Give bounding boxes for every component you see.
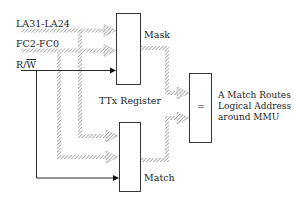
mask-output-bus	[140, 46, 189, 99]
mask-block	[117, 14, 141, 85]
output-text-line-3: around MMU	[218, 112, 280, 122]
match-output-bus	[140, 112, 189, 162]
rw-line	[21, 68, 119, 182]
rw-w-overbar: W	[26, 59, 36, 70]
output-text-line-1: A Match Routes	[217, 90, 291, 100]
output-text-line-2: Logical Address	[218, 101, 291, 111]
match-block	[120, 123, 141, 192]
mask-label: Mask	[144, 29, 170, 40]
fc-label: FC2-FC0	[16, 38, 59, 49]
compare-label: =	[197, 101, 205, 112]
rw-label: R/W	[16, 59, 36, 70]
ttx-register-diagram: LA31-LA24 FC2-FC0 R/W Mask Match TTx Reg…	[0, 0, 294, 200]
register-label: TTx Register	[99, 95, 161, 106]
match-label: Match	[144, 172, 175, 183]
la-label: LA31-LA24	[16, 18, 70, 29]
